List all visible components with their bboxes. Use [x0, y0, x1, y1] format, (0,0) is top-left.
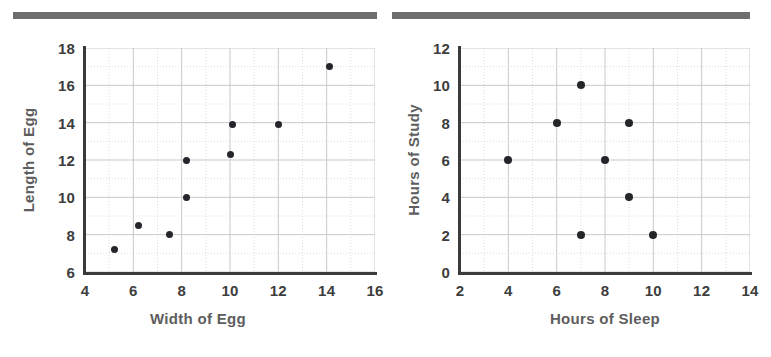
y-tick-label-sleep-study: 0: [412, 264, 450, 281]
data-point: [135, 222, 142, 229]
x-tick-label-sleep-study: 10: [645, 282, 662, 299]
y-tick-label-egg: 18: [37, 40, 75, 57]
data-point: [111, 246, 118, 253]
plot-area-egg: [85, 48, 375, 272]
x-tick-label-sleep-study: 8: [601, 282, 610, 299]
x-tick-label-sleep-study: 4: [504, 282, 513, 299]
y-tick-label-egg: 8: [37, 226, 75, 243]
chart-sleep-vs-study: 0246810122468101214 Hours of Sleep Hours…: [385, 0, 771, 357]
chart-width-vs-length-of-egg: 68101214161846810121416 Width of Egg Len…: [0, 0, 385, 357]
y-tick-label-egg: 12: [37, 152, 75, 169]
x-axis-line-egg: [83, 272, 377, 275]
x-axis-title-egg: Width of Egg: [150, 310, 246, 327]
y-tick-label-sleep-study: 12: [412, 40, 450, 57]
x-tick-label-egg: 6: [129, 282, 138, 299]
y-tick-label-egg: 6: [37, 264, 75, 281]
data-point: [601, 156, 609, 164]
data-point: [183, 194, 190, 201]
data-point: [649, 231, 657, 239]
data-point: [625, 119, 633, 127]
y-axis-title-egg: Length of Egg: [20, 108, 37, 213]
y-axis-line-sleep-study: [458, 46, 461, 275]
x-tick-label-sleep-study: 14: [741, 282, 758, 299]
y-tick-label-egg: 10: [37, 189, 75, 206]
x-tick-label-egg: 14: [318, 282, 335, 299]
data-point: [227, 151, 234, 158]
data-point: [275, 121, 282, 128]
x-tick-label-egg: 10: [221, 282, 238, 299]
x-tick-label-sleep-study: 6: [552, 282, 561, 299]
x-tick-label-egg: 8: [177, 282, 186, 299]
data-point: [326, 63, 333, 70]
x-tick-label-sleep-study: 12: [693, 282, 710, 299]
x-tick-label-sleep-study: 2: [456, 282, 465, 299]
data-point: [183, 157, 190, 164]
x-tick-label-egg: 12: [270, 282, 287, 299]
x-axis-line-sleep-study: [458, 272, 752, 275]
y-tick-label-sleep-study: 2: [412, 226, 450, 243]
figure-page: 68101214161846810121416 Width of Egg Len…: [0, 0, 771, 357]
x-axis-title-sleep-study: Hours of Sleep: [550, 310, 660, 327]
y-tick-label-sleep-study: 10: [412, 77, 450, 94]
y-axis-title-sleep-study: Hours of Study: [405, 104, 422, 216]
data-point: [577, 231, 585, 239]
grid-lines-egg: [85, 48, 375, 272]
x-tick-label-egg: 4: [81, 282, 90, 299]
data-point: [229, 121, 236, 128]
x-tick-label-egg: 16: [366, 282, 383, 299]
y-tick-label-egg: 14: [37, 114, 75, 131]
y-axis-line-egg: [83, 46, 86, 275]
data-point: [553, 119, 561, 127]
y-tick-label-egg: 16: [37, 77, 75, 94]
